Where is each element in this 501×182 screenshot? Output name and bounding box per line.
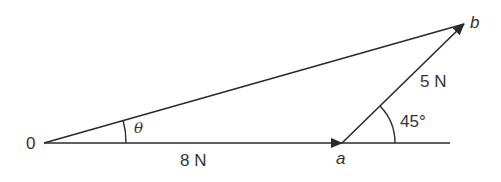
oa-magnitude-label: 8 N: [180, 152, 206, 169]
vector-drawing: [0, 0, 501, 182]
theta-label: θ: [134, 121, 143, 136]
vector-diagram: 0 θ 8 N a b 5 N 45°: [0, 0, 501, 182]
point-b-label: b: [470, 14, 479, 31]
theta-arc: [123, 120, 126, 143]
angle-45-arc: [380, 106, 395, 143]
origin-label: 0: [26, 135, 35, 152]
ab-magnitude-label: 5 N: [420, 73, 446, 90]
angle-label: 45°: [400, 113, 426, 130]
point-a-label: a: [336, 150, 345, 167]
